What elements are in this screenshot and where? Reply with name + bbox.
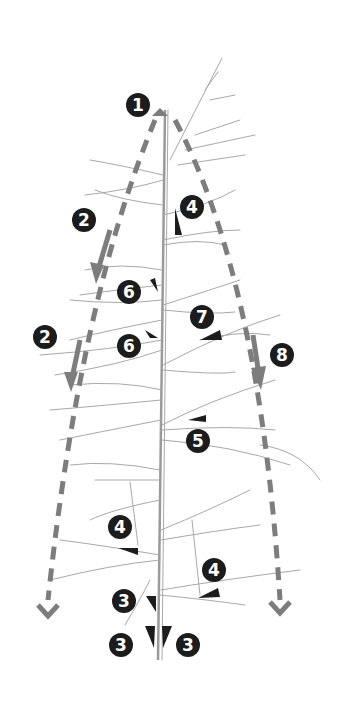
badge-4-right: 4 bbox=[202, 558, 226, 582]
badge-3-bottom-left: 3 bbox=[109, 633, 133, 657]
badge-1: 1 bbox=[126, 93, 150, 117]
badge-3-upper: 3 bbox=[112, 589, 136, 613]
badge-7: 7 bbox=[190, 305, 214, 329]
badge-4-upper: 4 bbox=[180, 195, 204, 219]
badge-5: 5 bbox=[186, 429, 210, 453]
badge-8: 8 bbox=[270, 343, 294, 367]
badge-2-lower: 2 bbox=[33, 325, 57, 349]
badge-6-upper: 6 bbox=[117, 280, 141, 304]
badge-4-left: 4 bbox=[108, 515, 132, 539]
badge-2-upper: 2 bbox=[72, 208, 96, 232]
badge-6-lower: 6 bbox=[117, 334, 141, 358]
badge-3-bottom-right: 3 bbox=[176, 633, 200, 657]
branch-diagram bbox=[0, 0, 346, 704]
